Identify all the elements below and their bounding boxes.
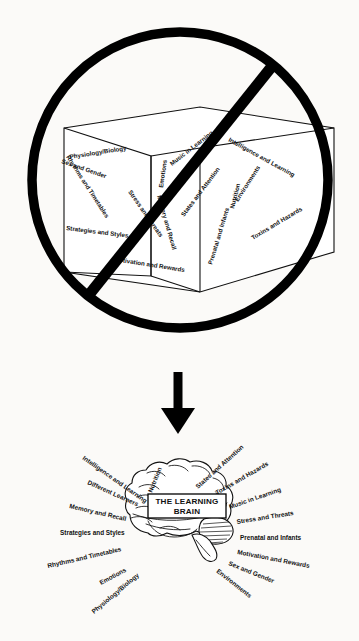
brain-label-prenatal-and-infants: Prenatal and Infants xyxy=(240,534,302,541)
center-caption-line1: THE LEARNING xyxy=(155,497,218,506)
brain-label-memory-and-recall: Memory and Recall xyxy=(69,502,128,523)
brain-label-music-in-learning: Music in Learning xyxy=(228,486,282,511)
center-caption: THE LEARNING BRAIN xyxy=(148,494,226,518)
brain-label-stress-and-threats: Stress and Threats xyxy=(236,509,294,525)
learning-brain-concept-figure: Physiology/Biology Emotions Music in Lea… xyxy=(0,0,359,641)
brain-label-strategies-and-styles: Strategies and Styles xyxy=(60,529,125,537)
learning-brain-radial-panel: THE LEARNING BRAIN Intelligence and Lear… xyxy=(0,0,359,641)
brain-label-rhythms-and-timetables: Rhythms and Timetables xyxy=(47,545,123,570)
center-caption-line2: BRAIN xyxy=(174,507,201,516)
